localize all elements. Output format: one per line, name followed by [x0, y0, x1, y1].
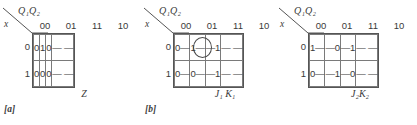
column-variable-label: Q₁Q₂: [159, 5, 181, 16]
kmap-cell: — —: [221, 35, 243, 61]
table-row: 1— —0 —1 — —: [310, 35, 378, 61]
kmap-caption: J₁ K₁: [173, 88, 277, 99]
kmap-cell-value: —1: [325, 68, 339, 79]
column-header-00: 00: [173, 20, 199, 31]
kmap-cell-value: —1: [341, 42, 355, 53]
column-variable-label: Q₁Q₂: [18, 5, 40, 16]
kmap-grid: 1— —0 —1 — — 0— —1 —0 — —: [308, 33, 379, 88]
column-header-10: 10: [110, 20, 136, 31]
column-header-11: 11: [84, 20, 110, 31]
column-header-01: 01: [199, 20, 225, 31]
column-headers: 00 01 11 10: [173, 20, 277, 31]
row-headers: 0 1: [157, 33, 171, 87]
kmap-grid: 0 1 0 — — 0 0 0 — —: [32, 33, 75, 88]
kmap-cell: 0—: [310, 61, 325, 87]
kmap-cell-value: 0: [34, 42, 39, 53]
table-row: 0— 1— —1 — —: [175, 35, 243, 61]
kmap-cell-value: — —: [356, 42, 377, 53]
kmap-cell: 0—: [175, 61, 190, 87]
table-row: 0 1 0 — —: [34, 35, 74, 61]
table-row: 0 0 0 — —: [34, 61, 74, 87]
kmap-cell-value: 0: [46, 68, 51, 79]
column-header-10: 10: [251, 20, 277, 31]
kmap-cell-value: —0: [325, 42, 339, 53]
kmap-cell-value: — —: [52, 68, 73, 79]
row-header-0: 0: [157, 33, 171, 60]
row-header-1: 1: [157, 60, 171, 87]
figure-label: [a]: [4, 104, 15, 114]
row-header-0: 0: [16, 33, 30, 60]
row-variable-label: x: [4, 19, 8, 29]
kmap-cell: —0: [325, 35, 340, 61]
kmap-cell-value: 1—: [310, 42, 324, 53]
table-row: 0— 0— —1 — —: [175, 61, 243, 87]
column-header-01: 01: [58, 20, 84, 31]
kmap-cell-value: —1: [206, 68, 220, 79]
kmap-caption: J₂K₂: [308, 88, 412, 99]
row-variable-label: x: [145, 19, 149, 29]
kmap-cell-value: 1—: [190, 42, 204, 53]
column-header-01: 01: [334, 20, 360, 31]
kmap-cell-value: — —: [221, 68, 242, 79]
row-headers: 0 1: [292, 33, 306, 87]
column-header-00: 00: [308, 20, 334, 31]
kmap-cell-value: 0: [46, 42, 51, 53]
row-header-0: 0: [292, 33, 306, 60]
kmap-cell-value: 0: [40, 68, 45, 79]
kmap-cell: —0: [340, 61, 355, 87]
kmap-cell-value: — —: [356, 68, 377, 79]
kmap-cell-value: 0: [34, 68, 39, 79]
kmap-cell-value: — —: [52, 42, 73, 53]
column-header-11: 11: [360, 20, 386, 31]
kmap-grid: 0— 1— —1 — — 0— 0— —1 — —: [173, 33, 244, 88]
kmap-cell-value: 0—: [175, 42, 189, 53]
figure-label: [b]: [145, 104, 156, 114]
column-headers: 00 01 11 10: [308, 20, 412, 31]
kmap-cell: 0—: [175, 35, 190, 61]
column-header-11: 11: [225, 20, 251, 31]
karnaugh-map-figure: Q₁Q₂ x 00 01 11 10 0 1 0 1 0 — — 0: [0, 0, 417, 125]
kmap-cell-circled: 1—: [190, 35, 205, 61]
kmap-cell: — —: [52, 61, 74, 87]
kmap-cell: — —: [52, 35, 74, 61]
row-variable-label: x: [280, 19, 284, 29]
row-header-1: 1: [16, 60, 30, 87]
kmap-cell-value: — —: [221, 42, 242, 53]
kmap-cell: — —: [356, 61, 378, 87]
kmap-cell-value: 0—: [190, 68, 204, 79]
kmap-cell-value: —0: [341, 68, 355, 79]
column-variable-label: Q₁Q₂: [294, 5, 316, 16]
row-headers: 0 1: [16, 33, 30, 87]
row-header-1: 1: [292, 60, 306, 87]
kmap-cell-value: 0—: [175, 68, 189, 79]
kmap-cell: 1—: [310, 35, 325, 61]
kmap-cell: —1: [325, 61, 340, 87]
kmap-cell: — —: [221, 61, 243, 87]
kmap-caption: Z: [32, 88, 136, 99]
column-header-10: 10: [386, 20, 412, 31]
column-headers: 00 01 11 10: [32, 20, 136, 31]
kmap-cell: —1: [205, 61, 220, 87]
kmap-cell-value: 0—: [310, 68, 324, 79]
kmap-cell: 0—: [190, 61, 205, 87]
kmap-cell-value: 1: [40, 42, 45, 53]
kmap-cell: — —: [356, 35, 378, 61]
table-row: 0— —1 —0 — —: [310, 61, 378, 87]
kmap-cell: —1: [340, 35, 355, 61]
column-header-00: 00: [32, 20, 58, 31]
